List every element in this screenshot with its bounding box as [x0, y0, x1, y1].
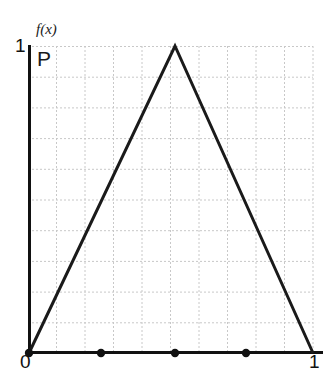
marker-dot-half [171, 349, 179, 357]
x-axis-tick-label-min: 0 [20, 352, 31, 369]
y-axis-tick-label-max: 1 [15, 36, 26, 55]
triangular-distribution-chart: f(x) 1 0 1 P [0, 0, 325, 369]
marker-dot-three-quarter [242, 349, 250, 357]
region-label-probability: P [37, 48, 51, 69]
y-axis-title: f(x) [36, 22, 57, 37]
x-axis-tick-label-max: 1 [309, 352, 320, 369]
marker-dot-quarter [97, 349, 105, 357]
